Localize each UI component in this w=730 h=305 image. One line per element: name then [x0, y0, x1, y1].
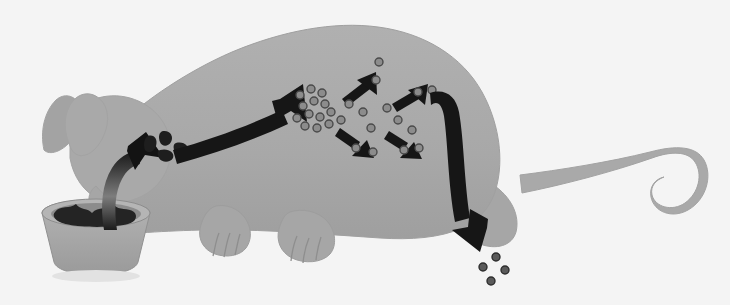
cat-digestion-illustration	[0, 0, 730, 305]
bowl-shadow	[52, 270, 140, 282]
nutrient-particle	[321, 100, 329, 108]
nutrient-particle	[307, 85, 315, 93]
nutrient-particle	[400, 146, 408, 154]
nutrient-particle	[310, 97, 318, 105]
nutrient-particle	[296, 91, 304, 99]
waste-particle	[479, 263, 487, 271]
nutrient-particle	[359, 108, 367, 116]
nutrient-particle	[369, 148, 377, 156]
nutrient-particle	[299, 102, 307, 110]
nutrient-particle	[367, 124, 375, 132]
nutrient-particle	[345, 100, 353, 108]
nutrient-particle	[293, 114, 301, 122]
nutrient-particle	[383, 104, 391, 112]
nutrient-particle	[313, 124, 321, 132]
waste-particle	[492, 253, 500, 261]
nutrient-particle	[305, 110, 313, 118]
nutrient-particle	[352, 144, 360, 152]
nutrient-particle	[394, 116, 402, 124]
nutrient-particle	[372, 76, 380, 84]
illustration-canvas: Cat digestion diagram Side view of a gra…	[0, 0, 730, 305]
nutrient-particle	[375, 58, 383, 66]
nutrient-particle	[408, 126, 416, 134]
nutrient-particle	[316, 113, 324, 121]
nutrient-particle	[301, 122, 309, 130]
nutrient-particle	[327, 108, 335, 116]
waste-particle	[501, 266, 509, 274]
nutrient-particle	[318, 89, 326, 97]
nutrient-particle	[337, 116, 345, 124]
nutrient-particle	[414, 88, 422, 96]
waste-particle	[487, 277, 495, 285]
nutrient-particle	[415, 144, 423, 152]
nutrient-particle	[325, 120, 333, 128]
